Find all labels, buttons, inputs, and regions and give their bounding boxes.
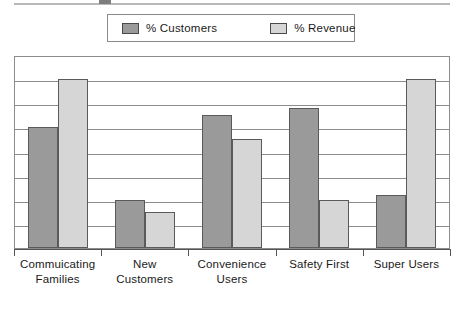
x-axis-label: Safety First [276,257,363,287]
top-divider-rule [14,3,450,5]
bar[interactable] [115,200,145,248]
x-axis-tick [101,249,102,256]
bar[interactable] [376,195,406,248]
x-axis-tick [14,249,15,256]
x-axis-label: CommuicatingFamilies [14,257,101,287]
x-axis-tick [188,249,189,256]
bar[interactable] [406,79,436,248]
top-divider-marker [99,0,111,4]
legend-label-customers: % Customers [146,22,217,34]
x-axis-tick [363,249,364,256]
legend-item-revenue: % Revenue [270,15,355,41]
chart-plot-area [14,56,450,249]
bars-layer [15,57,449,248]
x-axis-label: Super Users [363,257,450,287]
x-axis-line [14,249,450,250]
bar-group [102,57,189,248]
dark-swatch-icon [122,23,139,34]
bar[interactable] [145,212,175,248]
bar-group [275,57,362,248]
bar[interactable] [232,139,262,248]
legend-item-customers: % Customers [122,15,217,41]
x-axis-tick [276,249,277,256]
x-axis-label: NewCustomers [101,257,188,287]
x-axis-label-row: CommuicatingFamiliesNewCustomersConvenie… [14,257,450,287]
bar[interactable] [289,108,319,248]
bar[interactable] [202,115,232,248]
x-axis-label: ConvenienceUsers [188,257,275,287]
bar-group [189,57,276,248]
legend-label-revenue: % Revenue [294,22,355,34]
x-axis-tick [450,249,451,256]
chart-legend: % Customers % Revenue [107,14,355,42]
bar[interactable] [28,127,58,248]
bar[interactable] [58,79,88,248]
light-swatch-icon [270,23,287,34]
bar[interactable] [319,200,349,248]
bar-group [362,57,449,248]
bar-group [15,57,102,248]
